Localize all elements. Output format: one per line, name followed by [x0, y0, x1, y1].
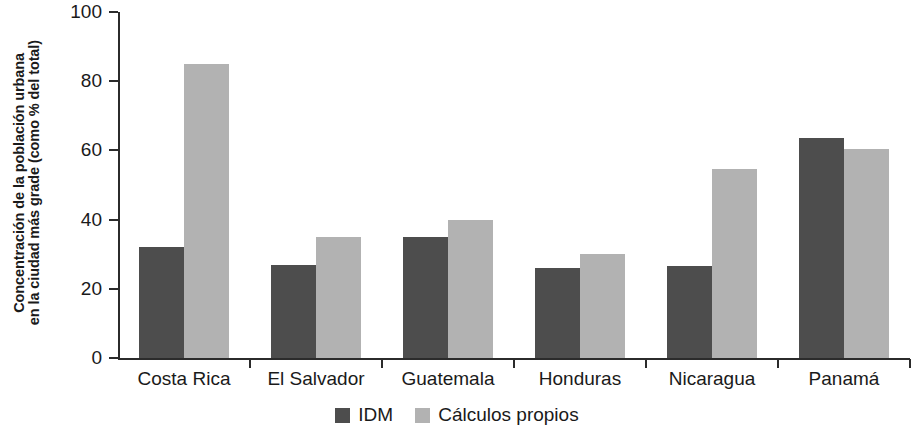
plot-area: 020406080100 — [118, 12, 908, 358]
y-tick-label-20: 20 — [81, 278, 102, 300]
legend-swatch-icon — [415, 408, 430, 423]
bar-guatemala-cálculos-propios — [448, 220, 493, 358]
y-tick-80: 80 — [109, 80, 118, 82]
legend-label: IDM — [358, 404, 393, 426]
category-label-panamá: Panamá — [778, 368, 910, 390]
y-tick-label-60: 60 — [81, 139, 102, 161]
legend-swatch-icon — [335, 408, 350, 423]
x-tick-2 — [381, 359, 383, 368]
y-tick-label-0: 0 — [91, 347, 102, 369]
legend-label: Cálculos propios — [438, 404, 578, 426]
y-tick-label-100: 100 — [70, 1, 102, 23]
bar-chart: Concentración de la población urbana en … — [0, 0, 914, 440]
category-label-honduras: Honduras — [514, 368, 646, 390]
bar-el-salvador-cálculos-propios — [316, 237, 361, 358]
bar-nicaragua-idm — [667, 266, 712, 358]
x-tick-5 — [777, 359, 779, 368]
category-label-el-salvador: El Salvador — [250, 368, 382, 390]
y-tick-100: 100 — [109, 11, 118, 13]
y-tick-label-80: 80 — [81, 70, 102, 92]
bar-el-salvador-idm — [271, 265, 316, 358]
x-axis-category-labels: Costa RicaEl SalvadorGuatemalaHondurasNi… — [118, 368, 910, 398]
y-axis-title-line-2: en la ciudad más grade (como % del total… — [27, 40, 42, 325]
x-tick-1 — [249, 359, 251, 368]
x-tick-4 — [645, 359, 647, 368]
y-tick-60: 60 — [109, 149, 118, 151]
chart-legend: IDMCálculos propios — [0, 404, 914, 426]
y-tick-label-40: 40 — [81, 209, 102, 231]
y-axis-title-line-1: Concentración de la población urbana — [12, 53, 27, 313]
category-label-nicaragua: Nicaragua — [646, 368, 778, 390]
bar-costa-rica-cálculos-propios — [184, 64, 229, 358]
bar-panamá-idm — [799, 138, 844, 358]
y-tick-20: 20 — [109, 288, 118, 290]
bar-honduras-cálculos-propios — [580, 254, 625, 358]
bar-panamá-cálculos-propios — [844, 149, 889, 358]
category-label-guatemala: Guatemala — [382, 368, 514, 390]
category-label-costa-rica: Costa Rica — [118, 368, 250, 390]
bar-honduras-idm — [535, 268, 580, 358]
bar-nicaragua-cálculos-propios — [712, 169, 757, 358]
y-axis-title: Concentración de la población urbana en … — [0, 0, 56, 366]
x-tick-3 — [513, 359, 515, 368]
y-axis-line — [118, 12, 120, 359]
y-tick-0: 0 — [109, 357, 118, 359]
legend-item-cálculos-propios[interactable]: Cálculos propios — [415, 404, 578, 426]
bar-costa-rica-idm — [139, 247, 184, 358]
bar-guatemala-idm — [403, 237, 448, 358]
x-tick-6 — [909, 359, 911, 368]
y-tick-40: 40 — [109, 219, 118, 221]
legend-item-idm[interactable]: IDM — [335, 404, 393, 426]
